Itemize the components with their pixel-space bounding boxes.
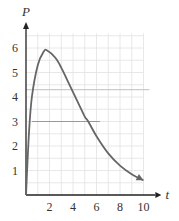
x-tick-label: 4: [70, 200, 76, 214]
x-tick-label: 6: [94, 200, 100, 214]
y-axis-arrowhead: [23, 22, 29, 29]
y-tick-label: 4: [12, 90, 18, 104]
x-tick-label: 10: [138, 200, 150, 214]
y-tick-label: 3: [12, 115, 18, 129]
x-tick-label: 8: [117, 200, 123, 214]
axes: t P: [21, 4, 169, 202]
y-tick-label: 2: [12, 139, 18, 153]
tick-labels: 246810123456: [12, 41, 150, 214]
y-tick-label: 1: [12, 164, 18, 178]
y-axis-label: P: [21, 4, 30, 19]
y-tick-label: 5: [12, 66, 18, 80]
y-tick-label: 6: [12, 41, 18, 55]
chart: t P 246810123456: [0, 0, 179, 221]
x-axis-arrowhead: [155, 192, 161, 198]
annotations: [26, 90, 149, 122]
x-axis-label: t: [165, 187, 169, 202]
x-tick-label: 2: [47, 200, 53, 214]
